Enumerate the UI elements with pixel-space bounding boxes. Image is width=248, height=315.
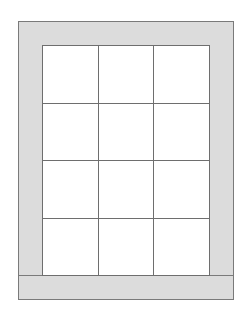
grid-block bbox=[154, 46, 210, 104]
left-border-band bbox=[18, 45, 43, 276]
grid-block bbox=[99, 46, 155, 104]
grid-block bbox=[99, 161, 155, 219]
top-border-band bbox=[18, 21, 234, 46]
grid-block bbox=[99, 219, 155, 277]
grid-block bbox=[154, 219, 210, 277]
bottom-border-band bbox=[18, 275, 234, 300]
grid-block bbox=[154, 161, 210, 219]
grid-block bbox=[99, 104, 155, 162]
grid-block bbox=[43, 46, 99, 104]
grid-block bbox=[43, 219, 99, 277]
block-grid bbox=[42, 45, 210, 276]
grid-block bbox=[43, 161, 99, 219]
grid-block bbox=[154, 104, 210, 162]
grid-block bbox=[43, 104, 99, 162]
right-border-band bbox=[209, 45, 234, 276]
